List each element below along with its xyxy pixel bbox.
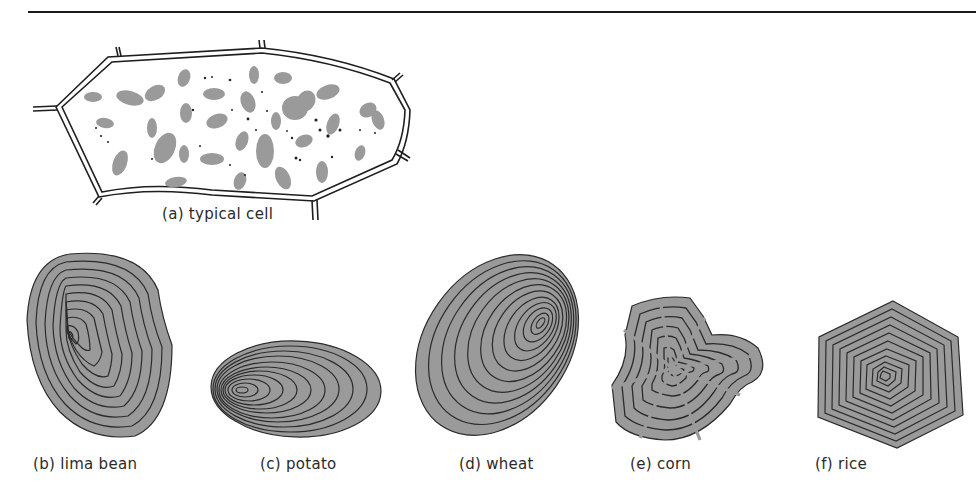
caption-rice: (f) rice [815, 455, 867, 473]
rice-grain [818, 301, 963, 448]
wheat-grain [382, 223, 612, 466]
corn-grain [612, 297, 763, 440]
starch-grains-figure [0, 0, 979, 495]
lima-bean-grain [27, 253, 172, 437]
caption-lima-bean: (b) lima bean [33, 455, 137, 473]
potato-grain [209, 338, 382, 440]
caption-typical-cell: (a) typical cell [162, 205, 273, 223]
caption-corn: (e) corn [630, 455, 691, 473]
starch-grains-in-cell [84, 66, 387, 192]
caption-wheat: (d) wheat [459, 455, 534, 473]
typical-cell-diagram [33, 40, 410, 220]
caption-potato: (c) potato [260, 455, 337, 473]
